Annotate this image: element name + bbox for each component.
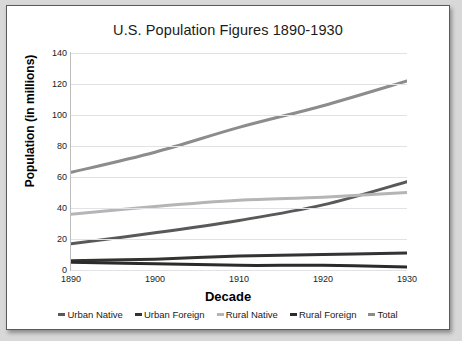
legend-item[interactable]: Rural Foreign: [290, 309, 357, 320]
series-line: [71, 182, 407, 244]
y-tick-label: 100: [31, 110, 67, 120]
series-lines: [71, 53, 407, 270]
chart-figure-frame: U.S. Population Figures 1890-1930 Popula…: [6, 5, 450, 330]
legend-swatch-icon: [217, 313, 224, 316]
legend-swatch-icon: [58, 313, 65, 316]
legend-item[interactable]: Urban Native: [58, 309, 122, 320]
legend-item[interactable]: Total: [368, 309, 397, 320]
series-line: [71, 81, 407, 172]
gridline: [71, 177, 407, 178]
y-tick-label: 120: [31, 79, 67, 89]
legend-label: Total: [377, 309, 397, 320]
x-tick-label: 1920: [299, 274, 347, 284]
series-line: [71, 262, 407, 267]
gridline: [71, 146, 407, 147]
legend-swatch-icon: [135, 313, 142, 316]
legend-item[interactable]: Rural Native: [217, 309, 278, 320]
x-tick-label: 1890: [47, 274, 95, 284]
x-tick-label: 1930: [383, 274, 431, 284]
y-tick-label: 80: [31, 141, 67, 151]
y-tick-label: 140: [31, 48, 67, 58]
series-line: [71, 193, 407, 215]
y-tick-label: 60: [31, 172, 67, 182]
x-axis-tick-labels: 18901900191019201930: [71, 274, 407, 288]
series-line: [71, 253, 407, 261]
legend-label: Rural Native: [226, 309, 278, 320]
legend-label: Urban Foreign: [144, 309, 205, 320]
plot-area: [71, 53, 407, 270]
x-axis-title: Decade: [7, 289, 449, 304]
legend-label: Rural Foreign: [299, 309, 357, 320]
chart-legend: Urban NativeUrban ForeignRural NativeRur…: [7, 309, 449, 320]
gridline: [71, 115, 407, 116]
gridline: [71, 84, 407, 85]
y-tick-label: 20: [31, 234, 67, 244]
legend-label: Urban Native: [67, 309, 122, 320]
x-tick-label: 1910: [215, 274, 263, 284]
gridline: [71, 208, 407, 209]
y-tick-label: 40: [31, 203, 67, 213]
chart-title: U.S. Population Figures 1890-1930: [7, 22, 449, 38]
legend-swatch-icon: [368, 313, 375, 316]
gridline: [71, 53, 407, 54]
gridline: [71, 239, 407, 240]
legend-item[interactable]: Urban Foreign: [135, 309, 205, 320]
legend-swatch-icon: [290, 313, 297, 316]
y-axis-tick-labels: 020406080100120140: [27, 53, 67, 270]
x-tick-label: 1900: [131, 274, 179, 284]
gridline: [71, 270, 407, 271]
